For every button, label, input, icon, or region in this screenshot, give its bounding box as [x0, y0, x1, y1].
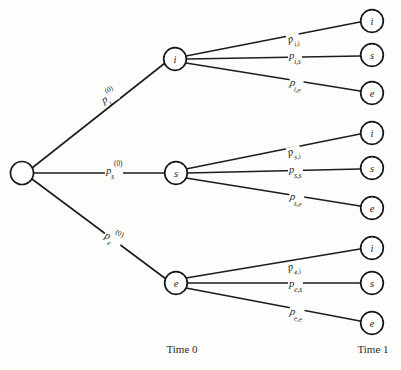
edge-label-p-s-0-sub: s	[111, 173, 114, 181]
edge-label-p-e-i: pe,i	[286, 260, 302, 273]
edge-label-p-i-s-sub: i,s	[294, 58, 301, 66]
edge-label-p-e-0: pe(0)	[102, 230, 123, 247]
probability-tree-diagram: i s e i s e i s e i s e Time 0 Time 1 pi…	[0, 0, 401, 370]
node-level1-i-label: i	[174, 54, 177, 65]
edge-s-to-leaf-e	[186, 178, 360, 206]
edge-label-p-e-i-sub: e,i	[293, 267, 302, 276]
node-level1-s-label: s	[174, 168, 178, 179]
node-leaf-3-label: e	[370, 88, 375, 99]
node-leaf-8-label: s	[370, 278, 374, 289]
time-1-label: Time 1	[357, 343, 388, 355]
edge-s-to-leaf-s	[187, 169, 360, 173]
node-level1-e-label: e	[174, 278, 179, 289]
edge-label-p-s-i-sub: s,i	[293, 152, 301, 161]
edge-i-to-leaf-e	[186, 63, 360, 91]
node-leaf-7-label: i	[371, 243, 374, 254]
edge-e-to-leaf-f	[186, 288, 360, 321]
tree-graphics: i s e i s e i s e i s e Time 0 Time 1	[0, 0, 401, 370]
edge-label-p-i-s: pi,s	[288, 51, 302, 62]
edge-s-to-leaf-i	[186, 134, 360, 169]
edge-i-to-leaf-s	[187, 56, 360, 59]
node-leaf-1-label: i	[371, 16, 374, 27]
edge-root-to-e	[32, 179, 166, 279]
node-leaf-2-label: s	[370, 50, 374, 61]
node-leaf-4-label: i	[371, 128, 374, 139]
edge-label-p-s-i: ps,i	[286, 145, 302, 158]
edge-i-to-leaf-i	[186, 22, 360, 56]
edge-label-p-i-i-sub: i,i	[293, 39, 300, 48]
edge-label-p-s-s-sub: s,s	[294, 172, 301, 180]
node-leaf-6-label: e	[370, 203, 375, 214]
edge-e-to-leaf-i	[186, 249, 360, 278]
edge-label-p-e-s-sub: e,s	[294, 286, 302, 294]
edge-label-p-i-i: pi,i	[286, 32, 301, 45]
time-0-label: Time 0	[166, 343, 198, 355]
node-root[interactable]	[11, 162, 34, 185]
node-leaf-9-label: e	[370, 318, 375, 329]
edge-root-to-i	[32, 63, 165, 168]
edge-label-p-e-s: pe,s	[288, 279, 303, 290]
edge-label-p-s-s: ps,s	[288, 165, 303, 176]
edge-label-p-s-0: ps(0)	[105, 166, 123, 177]
node-leaf-5-label: s	[370, 163, 374, 174]
edge-label-p-s-0-sup: (0)	[114, 160, 122, 168]
